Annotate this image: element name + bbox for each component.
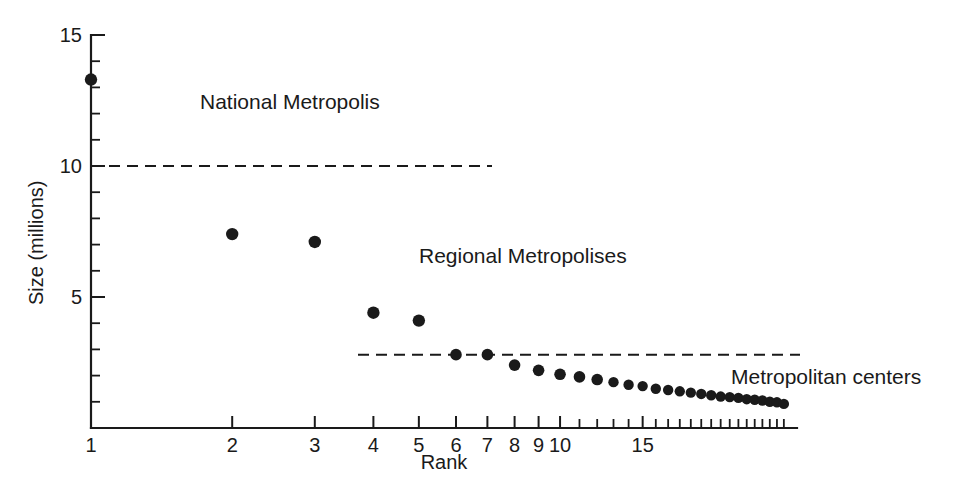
data-point <box>413 314 425 326</box>
data-point <box>686 387 696 397</box>
data-point <box>779 399 789 409</box>
x-axis-title: Rank <box>421 451 469 473</box>
x-tick-label: 8 <box>509 434 520 456</box>
data-point <box>591 374 603 386</box>
x-tick-label: 15 <box>632 434 654 456</box>
data-point <box>554 368 566 380</box>
data-point <box>696 389 706 399</box>
annotation-label: Regional Metropolises <box>419 244 627 267</box>
y-tick-label: 5 <box>71 286 82 308</box>
y-axis-tick-labels: 51015 <box>60 24 82 308</box>
x-tick-label: 7 <box>482 434 493 456</box>
x-axis-tick-labels: 1234567891015 <box>85 434 653 456</box>
data-point <box>85 73 97 85</box>
data-point <box>226 228 238 240</box>
x-tick-label: 1 <box>85 434 96 456</box>
x-tick-label: 2 <box>227 434 238 456</box>
scatter-plot-svg: 51015 1234567891015 National MetropolisR… <box>0 0 961 502</box>
x-tick-label: 4 <box>368 434 379 456</box>
x-tick-label: 9 <box>533 434 544 456</box>
x-tick-label: 3 <box>309 434 320 456</box>
data-point <box>663 385 673 395</box>
data-points-group <box>85 73 789 409</box>
data-point <box>309 236 321 248</box>
data-point <box>450 349 462 361</box>
data-point <box>533 365 545 377</box>
data-point <box>651 384 661 394</box>
data-point <box>706 390 716 400</box>
y-axis-ticks <box>91 35 105 402</box>
data-point <box>367 307 379 319</box>
chart-figure: 51015 1234567891015 National MetropolisR… <box>0 0 961 502</box>
y-tick-label: 15 <box>60 24 82 46</box>
data-point <box>574 371 586 383</box>
x-axis-ticks <box>91 416 784 428</box>
data-point <box>482 349 494 361</box>
annotations-group: National MetropolisRegional Metropolises… <box>200 90 921 388</box>
data-point <box>715 391 725 401</box>
y-tick-label: 10 <box>60 155 82 177</box>
data-point <box>608 377 618 387</box>
x-tick-label: 10 <box>549 434 571 456</box>
annotation-label: Metropolitan centers <box>731 365 921 388</box>
data-point <box>675 386 685 396</box>
y-axis-title: Size (millions) <box>25 181 47 305</box>
data-point <box>623 380 633 390</box>
annotation-label: National Metropolis <box>200 90 380 113</box>
data-point <box>509 359 521 371</box>
data-point <box>637 381 647 391</box>
